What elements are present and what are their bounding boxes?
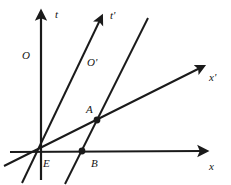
axis-label-x-prime: x' xyxy=(209,72,216,83)
point-label-B: B xyxy=(91,158,98,169)
point-marker-B xyxy=(79,148,86,155)
point-label-A: A xyxy=(86,104,93,115)
frame-label-O-prime: O' xyxy=(87,57,97,68)
point-marker-A xyxy=(94,117,101,124)
axis-lines xyxy=(4,16,202,184)
diagram-canvas xyxy=(0,0,231,185)
axis-line-t-prime xyxy=(22,20,100,183)
axis-label-t-prime: t' xyxy=(110,10,115,21)
axis-label-t: t xyxy=(55,9,58,20)
axis-label-x: x xyxy=(209,161,214,172)
axis-line-x xyxy=(10,151,202,152)
frame-label-O: O xyxy=(22,50,30,61)
spacetime-diagram-figure: t x t' x' O O' E A B xyxy=(0,0,231,185)
point-label-E: E xyxy=(43,158,50,169)
